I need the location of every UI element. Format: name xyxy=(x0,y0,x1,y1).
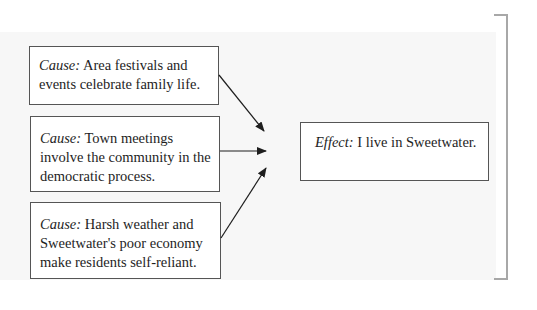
arrow-cause1-to-effect xyxy=(219,75,264,131)
arrow-cause3-to-effect xyxy=(221,168,266,238)
arrows-layer xyxy=(0,0,537,310)
